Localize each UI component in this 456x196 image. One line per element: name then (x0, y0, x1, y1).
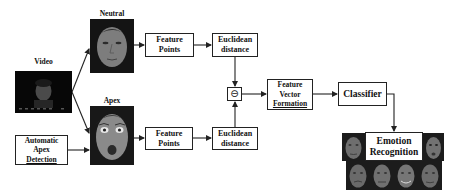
emotion-face-4 (370, 161, 394, 190)
fp-top-line-1: Feature (156, 35, 183, 45)
neutral-label: Neutral (90, 10, 134, 18)
euclidean-distance-bottom-box: Euclidean distance (212, 127, 258, 150)
feature-vector-formation-box: Feature Vector Formation (267, 79, 313, 110)
emotion-recognition-pipeline-diagram: Video Neutral Apex (0, 0, 456, 196)
feature-points-top-box: Feature Points (145, 33, 194, 57)
auto-apex-line-2: Apex (33, 145, 50, 155)
classifier-box: Classifier (338, 82, 387, 106)
emotion-face-1 (342, 133, 365, 161)
fp-bottom-line-1: Feature (156, 129, 183, 139)
euclid-bottom-line-1: Euclidean (218, 129, 252, 139)
fp-top-line-2: Points (159, 45, 180, 55)
emotion-line-2: Recognition (370, 147, 419, 158)
feature-points-bottom-box: Feature Points (145, 127, 193, 150)
emotion-line-1: Emotion (377, 136, 412, 147)
emotion-face-5 (394, 161, 418, 190)
euclidean-distance-top-box: Euclidean distance (212, 33, 258, 57)
subtract-operator-box: ⊖ (227, 87, 242, 101)
fv-line-1: Feature (278, 80, 303, 90)
emotion-recognition-box: Emotion Recognition (365, 132, 423, 161)
auto-apex-line-3: Detection (26, 155, 56, 165)
classifier-label: Classifier (343, 89, 382, 100)
auto-apex-line-1: Automatic (25, 136, 59, 146)
euclid-top-line-2: distance (221, 45, 249, 55)
video-label: Video (15, 58, 72, 66)
euclid-top-line-1: Euclidean (218, 35, 252, 45)
fp-bottom-line-2: Points (158, 139, 179, 149)
apex-label: Apex (90, 97, 134, 105)
fv-line-2: Vector (280, 90, 301, 100)
euclid-bottom-line-2: distance (221, 139, 249, 149)
video-frame-image (15, 71, 72, 113)
fv-line-3: Formation (273, 99, 307, 109)
automatic-apex-detection-box: Automatic Apex Detection (15, 135, 68, 165)
apex-face-image (90, 106, 134, 165)
emotion-face-6 (418, 161, 442, 190)
neutral-face-image (90, 19, 134, 73)
minus-circle-icon: ⊖ (230, 89, 238, 99)
emotion-face-3 (346, 161, 370, 190)
emotion-face-2 (423, 133, 444, 161)
